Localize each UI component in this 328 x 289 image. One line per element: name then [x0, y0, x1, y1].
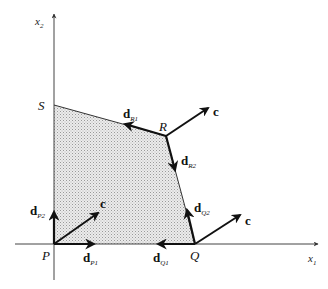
vertex-Q-label: Q — [190, 248, 200, 263]
vector-c-at-P-label: c — [100, 196, 106, 211]
vector-c-at-R-arrow — [166, 108, 208, 136]
vector-dP1-label: dP1 — [83, 250, 98, 267]
vector-dQ2-label: dQ2 — [194, 200, 210, 217]
x1-axis-label: x1 — [307, 252, 316, 267]
vector-dP2-label: dP2 — [30, 203, 46, 220]
vector-dQ1-label: dQ1 — [153, 250, 169, 267]
vector-c-at-Q-label: c — [245, 213, 251, 228]
vertex-R-label: R — [158, 119, 167, 134]
feasible-region — [54, 105, 195, 244]
x2-axis-label: x2 — [34, 15, 44, 30]
vector-dR1-label: dR1 — [123, 106, 138, 123]
vector-c-at-R-label: c — [213, 104, 219, 119]
vertex-S-label: S — [38, 98, 45, 113]
vector-c-at-Q-arrow — [195, 215, 240, 244]
vertex-P-label: P — [41, 248, 50, 263]
vector-dR2-label: dR2 — [181, 153, 197, 170]
diagram-canvas: x2 x1 S R P Q dP2 dP1 c dQ1 dQ2 c dR1 dR… — [0, 0, 328, 289]
